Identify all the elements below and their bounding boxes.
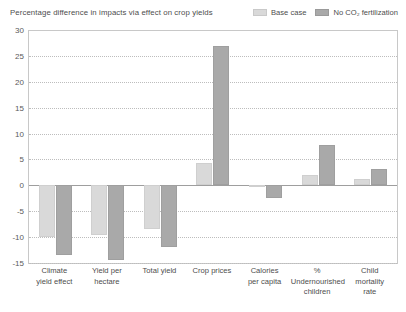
x-axis-label: Yield perhectare	[81, 266, 134, 287]
bar-group	[292, 30, 345, 263]
plot-area: 302520151050-5-10-15	[28, 30, 398, 264]
x-axis-label-line: Crop prices	[186, 266, 239, 277]
y-axis-tick-label: -5	[17, 208, 24, 216]
legend-label-base-case: Base case	[271, 8, 306, 17]
bar-no-co2-fertilization	[108, 185, 124, 260]
legend-item-base-case: Base case	[253, 8, 306, 17]
x-axis-label-line: Child	[343, 266, 396, 277]
y-axis-tick-label: 15	[15, 105, 24, 113]
chart-legend: Base case No CO₂ fertilization	[253, 8, 398, 17]
legend-swatch-no-co2-fertilization	[315, 9, 329, 16]
bar-base-case	[196, 163, 212, 185]
x-axis-label: %Undernourishedchildren	[291, 266, 344, 298]
bar-no-co2-fertilization	[213, 46, 229, 186]
x-axis-labels: Climateyield effectYield perhectareTotal…	[28, 266, 398, 312]
bar-group	[82, 30, 135, 263]
bar-base-case	[354, 179, 370, 185]
y-axis-tick-label: 30	[15, 27, 24, 35]
chart-title: Percentage difference in impacts via eff…	[10, 8, 213, 17]
x-axis-label-line: %	[291, 266, 344, 277]
bar-base-case	[249, 185, 265, 187]
x-axis-label: Total yield	[133, 266, 186, 277]
bar-base-case	[91, 185, 107, 234]
y-axis-tick-label: 0	[20, 182, 24, 190]
x-axis-label: Childmortalityrate	[343, 266, 396, 298]
bar-no-co2-fertilization	[56, 185, 72, 255]
bar-group	[134, 30, 187, 263]
bar-no-co2-fertilization	[319, 145, 335, 185]
x-axis-label-line: mortality	[343, 277, 396, 288]
bar-group	[239, 30, 292, 263]
y-axis-tick-label: -10	[12, 234, 24, 242]
y-axis-tick-label: 5	[20, 156, 24, 164]
x-axis-label-line: per capita	[238, 277, 291, 288]
bar-no-co2-fertilization	[266, 185, 282, 198]
x-axis-label-line: Climate	[28, 266, 81, 277]
x-axis-label: Climateyield effect	[28, 266, 81, 287]
x-axis-label-line: Yield per	[81, 266, 134, 277]
bar-group	[344, 30, 397, 263]
x-axis-label-line: rate	[343, 287, 396, 298]
legend-swatch-base-case	[253, 9, 267, 16]
bar-base-case	[144, 185, 160, 229]
bar-base-case	[302, 175, 318, 185]
chart-container: Percentage difference in impacts via eff…	[0, 0, 406, 312]
bar-no-co2-fertilization	[161, 185, 177, 247]
legend-label-no-co2-fertilization: No CO₂ fertilization	[333, 8, 398, 17]
y-axis-tick-label: 10	[15, 131, 24, 139]
chart-header: Percentage difference in impacts via eff…	[0, 0, 406, 24]
x-axis-label-line: hectare	[81, 277, 134, 288]
bar-no-co2-fertilization	[371, 169, 387, 186]
x-axis-label: Caloriesper capita	[238, 266, 291, 287]
gridline: -15	[29, 263, 397, 264]
y-axis-tick-label: 25	[15, 53, 24, 61]
x-axis-label: Crop prices	[186, 266, 239, 277]
bar-base-case	[39, 185, 55, 237]
x-axis-label-line: Total yield	[133, 266, 186, 277]
bar-group	[187, 30, 240, 263]
y-axis-tick-label: 20	[15, 79, 24, 87]
x-axis-label-line: children	[291, 287, 344, 298]
plot-surface: 302520151050-5-10-15	[29, 30, 397, 263]
x-axis-label-line: yield effect	[28, 277, 81, 288]
x-axis-label-line: Undernourished	[291, 277, 344, 288]
legend-item-no-co2-fertilization: No CO₂ fertilization	[315, 8, 398, 17]
x-axis-label-line: Calories	[238, 266, 291, 277]
y-axis-tick-label: -15	[12, 260, 24, 268]
bar-group	[29, 30, 82, 263]
